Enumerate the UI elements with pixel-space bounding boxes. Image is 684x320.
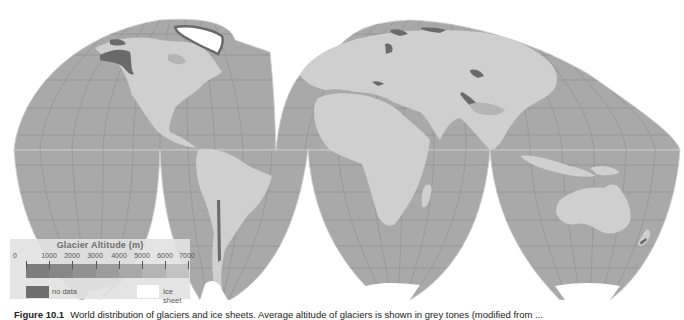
legend-tick-label: 2000 xyxy=(64,252,80,259)
gradient-segment xyxy=(142,264,165,278)
legend-tick-label: 7000 xyxy=(179,252,195,259)
legend-tick-labels: 0 1000 2000 3000 4000 5000 6000 7000 xyxy=(14,252,190,262)
gradient-segment xyxy=(26,264,49,278)
legend-tick-mark xyxy=(49,261,50,269)
legend-tick-label: 3000 xyxy=(87,252,103,259)
legend-tick-label: 1000 xyxy=(41,252,57,259)
legend-tick-mark xyxy=(142,261,143,269)
legend-tick-mark xyxy=(72,261,73,269)
legend-title: Glacier Altitude (m) xyxy=(10,240,190,250)
legend-tick-mark xyxy=(119,261,120,269)
ice-sheet-swatch xyxy=(137,285,159,298)
gradient-segment xyxy=(49,264,72,278)
no-data-swatch xyxy=(26,286,49,298)
legend-tick-label: 6000 xyxy=(157,252,173,259)
antarctica-ice-4 xyxy=(555,283,620,300)
legend-tick-mark xyxy=(188,261,189,269)
figure-caption-label: Figure 10.1 xyxy=(14,309,64,320)
gradient-segment xyxy=(96,264,119,278)
legend-tick-label: 5000 xyxy=(134,252,150,259)
legend-tick-label: 0 xyxy=(13,252,17,259)
legend-tick-mark xyxy=(96,261,97,269)
figure-caption: Figure 10.1World distribution of glacier… xyxy=(14,309,684,320)
gradient-segment xyxy=(166,264,189,278)
legend-tick-mark xyxy=(165,261,166,269)
figure-caption-text: World distribution of glaciers and ice s… xyxy=(70,309,543,320)
gradient-segment xyxy=(119,264,142,278)
no-data-label: no data xyxy=(52,287,77,296)
antarctica-ice-3 xyxy=(360,283,420,300)
legend-tick-mark xyxy=(26,261,27,269)
legend: Glacier Altitude (m) 0 1000 2000 3000 40… xyxy=(10,239,190,299)
ice-sheet-label: Ice sheet xyxy=(163,287,190,305)
gradient-segment xyxy=(73,264,96,278)
legend-tick-label: 4000 xyxy=(111,252,127,259)
